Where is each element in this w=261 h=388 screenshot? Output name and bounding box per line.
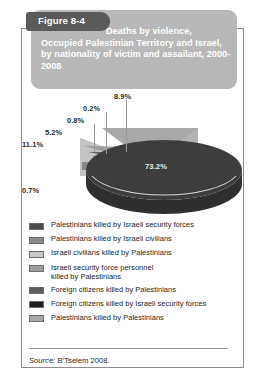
leader-line-89 [126, 100, 127, 152]
legend-item-palestinians-by-israeli-civilians[interactable]: Palestinians killed by Israeli civilians [29, 234, 239, 245]
legend-item-label: Palestinians killed by Israeli civilians [51, 234, 172, 243]
pie-label-07: 0.7% [22, 186, 39, 195]
leader-line-08 [94, 124, 95, 152]
source-prefix: Source: [29, 356, 55, 365]
figure-title: Deaths by violence, Occupied Palestinian… [41, 26, 231, 72]
pie-label-52: 5.2% [45, 128, 62, 137]
legend-swatch-icon [29, 223, 44, 230]
legend-swatch-icon [29, 287, 44, 294]
pie-label-111: 11.1% [22, 140, 43, 149]
legend-item-label: Israeli security force personnel killed … [51, 263, 153, 282]
pie-label-89: 8.9% [114, 92, 131, 101]
leader-line-02 [106, 112, 107, 154]
legend-item-label: Palestinians killed by Palestinians [51, 313, 164, 322]
legend-swatch-icon [29, 237, 44, 244]
pie-label-08: 0.8% [67, 116, 84, 125]
source-line: Source: B’Tselem 2008. [29, 356, 110, 365]
legend-swatch-icon [29, 301, 44, 308]
chart-legend: Palestinians killed by Israeli security … [29, 220, 239, 327]
legend-item-foreign-by-israeli-security[interactable]: Foreign citizens killed by Israeli secur… [29, 299, 239, 310]
source-divider [29, 348, 228, 349]
pie-slice-main-73 [86, 140, 242, 214]
pie-chart-svg [22, 92, 243, 214]
legend-item-label: Foreign citizens killed by Israeli secur… [51, 299, 206, 308]
legend-item-label: Israeli civilians killed by Palestinians [51, 248, 172, 257]
legend-item-label-line1: Israeli security force personnel [51, 263, 153, 272]
legend-item-label-line2: killed by Palestinians [51, 272, 121, 281]
pie-label-02: 0.2% [83, 104, 100, 113]
source-value: B’Tselem 2008. [57, 356, 109, 365]
legend-swatch-icon [29, 251, 44, 258]
legend-item-israeli-civilians-by-palestinians[interactable]: Israeli civilians killed by Palestinians [29, 248, 239, 259]
legend-swatch-icon [29, 265, 44, 272]
legend-item-palestinians-by-palestinians[interactable]: Palestinians killed by Palestinians [29, 313, 239, 324]
legend-item-israeli-security-personnel[interactable]: Israeli security force personnel killed … [29, 263, 239, 282]
legend-swatch-icon [29, 315, 44, 322]
legend-item-palestinians-by-israeli-security[interactable]: Palestinians killed by Israeli security … [29, 220, 239, 231]
legend-item-foreign-by-palestinians[interactable]: Foreign citizens killed by Palestinians [29, 285, 239, 296]
figure-container: Deaths by violence, Occupied Palestinian… [0, 0, 261, 388]
legend-item-label: Palestinians killed by Israeli security … [51, 220, 194, 229]
pie-label-732: 73.2% [145, 162, 167, 171]
figure-number-label: Figure 8-4 [38, 15, 85, 26]
pie-chart: 8.9% 0.2% 0.8% 5.2% 11.1% 0.7% 73.2% [22, 92, 243, 214]
legend-item-label: Foreign citizens killed by Palestinians [51, 285, 176, 294]
